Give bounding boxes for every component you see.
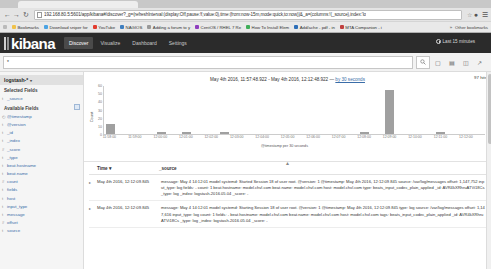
y-axis-tick: 50 (98, 92, 102, 96)
chart-interval-dash: — (329, 77, 334, 82)
sidebar-field-message[interactable]: message (0, 210, 83, 218)
bookmark-label: CentOS / RHEL 7 Re (201, 25, 241, 30)
back-arrow-icon[interactable]: ← (3, 10, 12, 19)
time-picker-button[interactable]: Last 15 minutes (436, 39, 475, 44)
browser-tab-active[interactable] (18, 1, 138, 8)
sidebar-field-input-type[interactable]: input_type (0, 202, 83, 210)
histogram-bar[interactable] (360, 132, 369, 134)
bookmark-favicon (147, 25, 151, 29)
histogram-bar[interactable] (220, 132, 229, 134)
address-bar[interactable]: 192.168.80.5:5601/app/kibana#/discover?_… (34, 10, 462, 20)
sidebar-field-index[interactable]: _index (0, 137, 83, 145)
sidebar-field-host[interactable]: host (0, 194, 83, 202)
hamburger-menu-icon[interactable]: ☰ (482, 11, 488, 19)
browser-tabstrip[interactable] (0, 0, 491, 8)
y-axis-tick: 30 (98, 109, 102, 113)
sidebar-field-score[interactable]: _score (0, 145, 83, 153)
bookmark-favicon (340, 25, 344, 29)
bookmark-item[interactable]: CentOS / RHEL 7 Re (195, 25, 241, 30)
table-row[interactable]: ▸ May 4th 2016, 12:12:09.845 message: Ma… (89, 201, 486, 227)
bookmark-folder-icon (12, 25, 16, 29)
bookmark-item[interactable]: YouTube (93, 25, 115, 30)
search-submit-button[interactable] (416, 56, 430, 69)
bookmark-item[interactable]: Add/ache - pdf - in (294, 25, 335, 30)
forward-arrow-icon[interactable]: → (12, 10, 21, 19)
share-search-icon[interactable]: ↗ (475, 56, 484, 68)
chart-interval-link[interactable]: by 30 seconds (335, 77, 365, 82)
bookmark-item[interactable]: Adding a forum to y (147, 25, 190, 30)
sidebar-field-beat-name[interactable]: beat.name (0, 170, 83, 178)
sidebar-field-offset[interactable]: offset (0, 219, 83, 227)
histogram-plot[interactable] (103, 86, 485, 135)
selected-fields-header: Selected Fields (0, 85, 83, 95)
field-filter-icon[interactable] (74, 104, 80, 110)
x-axis-tick: 12:12:00 (459, 135, 473, 139)
other-bookmarks-label: Other bookmarks (455, 25, 488, 30)
x-axis-label: @timestamp per 30 seconds (84, 144, 485, 148)
tab-settings[interactable]: Settings (164, 37, 192, 49)
clock-icon (436, 39, 441, 44)
sidebar-field-version[interactable]: @version (0, 120, 83, 128)
tab-dashboard[interactable]: Dashboard (127, 37, 161, 49)
histogram-bar[interactable] (106, 124, 115, 134)
expand-caret-icon[interactable]: ▸ (89, 179, 97, 197)
page-info-icon (37, 12, 42, 18)
row-time: May 4th 2016, 12:12:09.845 (97, 179, 159, 197)
sidebar-field-type[interactable]: _type (0, 153, 83, 161)
table-row[interactable]: ▸ May 4th 2016, 12:12:09.845 message: Ma… (89, 175, 486, 201)
row-source: message: May 4 14:12:01 model systemd: S… (159, 205, 486, 223)
sidebar-field-timestamp[interactable]: @timestamp (0, 112, 83, 120)
sidebar-field-count[interactable]: count (0, 178, 83, 186)
document-table: Time ▾ _source ▸ May 4th 2016, 12:12:09.… (84, 162, 491, 269)
x-axis-tick: 12:10:00 (408, 135, 422, 139)
x-axis-tick: 12:11:00 (434, 135, 447, 139)
row-time: May 4th 2016, 12:12:09.845 (97, 205, 159, 223)
bookmark-item[interactable] (3, 25, 7, 29)
scrollbar-thumb[interactable] (488, 74, 491, 144)
other-bookmarks-button[interactable]: » Other bookmarks (450, 25, 488, 30)
browser-omnibar-row: ← → ↻ 192.168.80.5:5601/app/kibana#/disc… (0, 8, 491, 21)
x-axis-ticks: 11:58:0011:59:0012:00:0012:01:0012:02:00… (103, 135, 485, 143)
column-header-time[interactable]: Time ▾ (97, 166, 159, 171)
tab-discover[interactable]: Discover (64, 37, 93, 49)
bookmarks-bar: Bookmarks Download sniper for YouTube NA… (0, 21, 491, 32)
bookmark-label: Adding a forum to y (153, 25, 190, 30)
sidebar-field-source-field[interactable]: source (0, 227, 83, 235)
x-axis-tick: 12:04:00 (255, 135, 269, 139)
x-axis-tick: 12:03:00 (230, 135, 244, 139)
bookmark-item[interactable]: Bookmarks (12, 25, 39, 30)
x-axis-tick: 12:05:00 (281, 135, 295, 139)
column-header-time-label: Time (97, 166, 108, 171)
bookmark-item[interactable]: How To Install Elem (246, 25, 289, 30)
bookmark-label: MTA Companion - i (345, 25, 381, 30)
histogram-bar[interactable] (182, 132, 191, 134)
vertical-scrollbar[interactable] (486, 72, 491, 269)
histogram-bar[interactable] (436, 132, 445, 134)
sidebar-field-fields[interactable]: fields (0, 186, 83, 194)
new-search-icon[interactable]: ▢ (433, 56, 442, 68)
index-pattern-selector[interactable]: logstash-* ▾ (0, 75, 83, 85)
bookmark-favicon (195, 25, 199, 29)
histogram-bar[interactable] (385, 90, 394, 134)
sort-arrow-icon[interactable]: ▾ (109, 166, 112, 171)
kibana-navbar: kibana Discover Visualize Dashboard Sett… (0, 33, 491, 53)
bookmark-item[interactable]: Download sniper for (44, 25, 88, 30)
search-input[interactable]: * (3, 56, 413, 69)
browser-chrome: ← → ↻ 192.168.80.5:5601/app/kibana#/disc… (0, 0, 491, 33)
bookmark-label: How To Install Elem (252, 25, 290, 30)
expand-caret-icon[interactable]: ▸ (89, 205, 97, 223)
y-axis-tick: 40 (98, 100, 102, 104)
open-search-icon[interactable]: ◫ (461, 56, 470, 68)
tab-visualize[interactable]: Visualize (95, 37, 125, 49)
sidebar-field-beat-hostname[interactable]: beat.hostname (0, 161, 83, 169)
sidebar-field-source[interactable]: _source (0, 95, 83, 103)
kibana-logo-text: kibana (11, 36, 55, 51)
kibana-logo: kibana (4, 36, 55, 51)
bookmark-item[interactable]: NAGIOS (120, 25, 142, 30)
bookmark-item[interactable]: MTA Companion - i (340, 25, 382, 30)
sidebar-field-id[interactable]: _id (0, 129, 83, 137)
histogram-bar[interactable] (157, 132, 166, 134)
reload-icon[interactable]: ↻ (21, 10, 31, 19)
profile-icon[interactable]: ● (474, 11, 478, 18)
save-search-icon[interactable]: ▤ (447, 56, 456, 68)
